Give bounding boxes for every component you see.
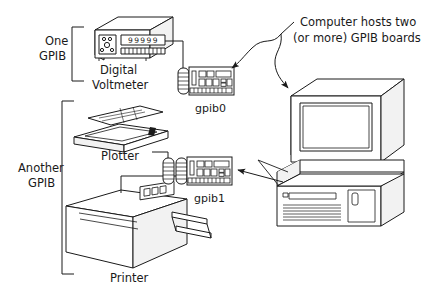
- gpib-board-gpib0: [178, 67, 234, 95]
- voltmeter-label-line1: Digital: [100, 63, 137, 77]
- desktop-computer: [277, 79, 404, 226]
- plotter-label: Plotter: [101, 149, 139, 163]
- bracket-one-gpib-label-line2: GPIB: [39, 49, 66, 63]
- bracket-another-gpib-label-line1: Another: [18, 161, 64, 175]
- gpib1-label: gpib1: [194, 192, 225, 205]
- gpib0-label: gpib0: [195, 102, 226, 115]
- voltmeter-label-line2: Voltmeter: [92, 78, 149, 92]
- gpib-board-gpib1: [163, 157, 232, 185]
- annotation-line2: (or more) GPIB boards: [293, 31, 421, 45]
- annotation-line1: Computer hosts two: [300, 15, 416, 29]
- bracket-one-gpib-label-line1: One: [45, 34, 68, 48]
- diagram-canvas: One GPIB Another GPIB 99999: [0, 0, 421, 298]
- gpib-topology-diagram: One GPIB Another GPIB 99999: [0, 0, 421, 298]
- digital-voltmeter: 99999: [95, 17, 173, 61]
- printer-label: Printer: [110, 271, 149, 285]
- bracket-another-gpib-label-line2: GPIB: [28, 176, 55, 190]
- voltmeter-display-value: 99999: [128, 36, 159, 45]
